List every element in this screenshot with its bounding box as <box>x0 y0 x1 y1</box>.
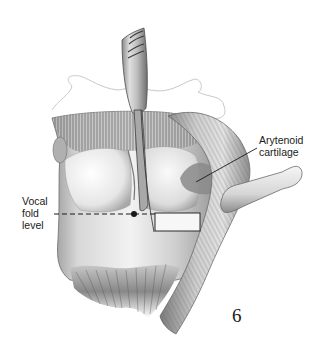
vocal-fold-marker-dot <box>131 211 137 217</box>
figure-number: 6 <box>232 305 242 327</box>
incision-box <box>155 213 200 231</box>
vocal-label-line-2: fold <box>22 207 48 219</box>
vocal-label-line-3: level <box>22 219 48 231</box>
left-vocal-fold <box>65 148 131 212</box>
left-nodule <box>53 137 67 163</box>
instrument-handle <box>122 28 147 114</box>
arytenoid-cartilage-label: Arytenoid cartilage <box>259 134 303 158</box>
arytenoid-label-line-2: cartilage <box>259 146 303 158</box>
vocal-label-line-1: Vocal <box>22 195 48 207</box>
vocal-fold-level-label: Vocal fold level <box>22 195 48 231</box>
larynx-illustration <box>0 0 325 357</box>
arytenoid-label-line-1: Arytenoid <box>259 134 303 146</box>
